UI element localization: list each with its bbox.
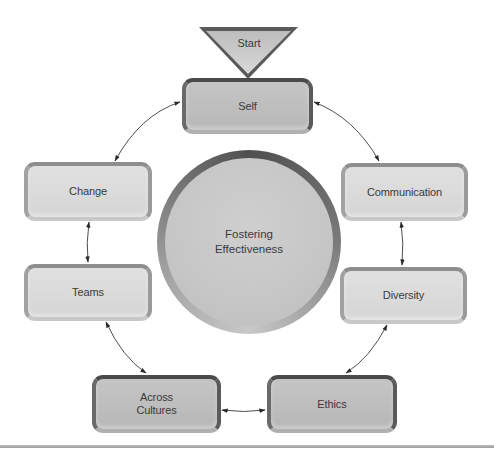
node-across-cultures-line-1: Across	[136, 391, 176, 404]
arrow-across-cultures-teams	[106, 322, 146, 373]
arrow-teams-change	[87, 222, 89, 262]
center-line-1: Fostering	[215, 227, 283, 242]
node-ethics-label: Ethics	[317, 398, 346, 411]
node-change-label: Change	[69, 185, 107, 198]
center-line-2: Effectiveness	[215, 242, 283, 257]
node-ethics: Ethics	[267, 375, 397, 433]
arrow-self-communication	[314, 102, 379, 161]
node-across-cultures-line-2: Cultures	[136, 404, 176, 417]
node-communication: Communication	[341, 163, 468, 221]
node-teams-label: Teams	[72, 286, 104, 299]
center-hub-label: Fostering Effectiveness	[165, 158, 333, 326]
start-label: Start	[199, 37, 299, 49]
node-diversity-label: Diversity	[383, 289, 424, 302]
node-change: Change	[24, 162, 152, 221]
node-self: Self	[182, 78, 313, 134]
arrow-communication-diversity	[401, 222, 403, 265]
start-triangle	[199, 27, 298, 79]
node-diversity: Diversity	[340, 267, 467, 324]
effectiveness-cycle-diagram: Start Fostering Effectiveness Self Commu…	[0, 0, 494, 455]
arrow-ethics-across-cultures	[222, 410, 265, 412]
arrow-change-self	[115, 102, 180, 161]
node-self-label: Self	[238, 100, 257, 113]
bottom-divider-rule	[0, 445, 494, 448]
arrow-diversity-ethics	[346, 325, 387, 373]
center-hub-circle: Fostering Effectiveness	[157, 150, 341, 334]
node-communication-label: Communication	[367, 186, 442, 199]
node-teams: Teams	[24, 264, 152, 321]
node-across-cultures: Across Cultures	[92, 375, 221, 433]
